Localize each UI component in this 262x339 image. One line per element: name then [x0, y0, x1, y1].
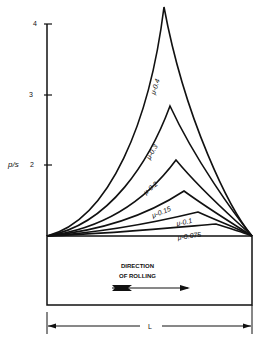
arrow-right-icon	[112, 285, 190, 291]
tick-label-3: 3	[29, 91, 33, 98]
tick-label-2: 2	[30, 161, 34, 168]
dimension-label: L	[148, 323, 152, 330]
tick-label-4: 4	[33, 20, 37, 27]
direction-label-line1: DIRECTION	[121, 263, 154, 269]
curve-mu-0-2	[47, 160, 252, 236]
dim-arrow-right-icon	[243, 324, 251, 329]
curve-mu-0-4	[47, 7, 252, 236]
strip-outline	[47, 236, 252, 305]
y-axis-label: p/s	[7, 160, 19, 169]
label-mu-0-3: μ-0.3	[144, 143, 159, 162]
dim-arrow-left-icon	[48, 324, 56, 329]
friction-hill-diagram: 4 3 2 p/s μ-0.4 μ-0.3 μ-0.2 μ-0.15 μ-0.1…	[0, 0, 262, 339]
direction-label-line2: OF ROLLING	[119, 273, 156, 279]
label-mu-0-075: μ-0.075	[176, 231, 202, 242]
friction-hill-curves	[47, 7, 252, 236]
